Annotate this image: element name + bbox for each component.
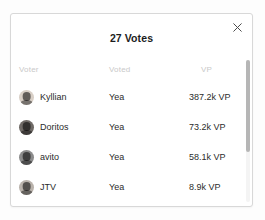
voter-name: avito bbox=[40, 152, 59, 162]
votes-dialog: 27 Votes Voter Voted VP Kyllian Yea 387.… bbox=[10, 13, 253, 207]
table-body: Kyllian Yea 387.2k VP Doritos Yea 73.2k … bbox=[11, 82, 252, 206]
table-row[interactable]: JTV Yea 8.9k VP bbox=[11, 172, 252, 202]
scrollbar[interactable] bbox=[246, 60, 250, 202]
column-header-voter: Voter bbox=[19, 65, 39, 74]
voter-name: Doritos bbox=[40, 122, 69, 132]
avatar bbox=[19, 120, 34, 135]
close-glyph bbox=[233, 23, 242, 32]
vp-value: 8.9k VP bbox=[189, 182, 221, 192]
column-header-voted: Voted bbox=[109, 65, 130, 74]
vp-value: 387.2k VP bbox=[189, 92, 231, 102]
avatar bbox=[19, 90, 34, 105]
table-header-row: Voter Voted VP bbox=[11, 56, 252, 82]
vp-value: 58.1k VP bbox=[189, 152, 226, 162]
voter-name: JTV bbox=[40, 182, 56, 192]
voter-cell: JTV bbox=[19, 180, 56, 195]
voted-value: Yea bbox=[109, 92, 124, 102]
voted-value: Yea bbox=[109, 182, 124, 192]
voter-cell: Doritos bbox=[19, 120, 69, 135]
vp-value: 73.2k VP bbox=[189, 122, 226, 132]
page-title: 27 Votes bbox=[11, 32, 252, 44]
voter-cell: avito bbox=[19, 150, 59, 165]
avatar bbox=[19, 150, 34, 165]
voter-cell: Kyllian bbox=[19, 90, 67, 105]
voter-name: Kyllian bbox=[40, 92, 67, 102]
table-row[interactable]: avito Yea 58.1k VP bbox=[11, 142, 252, 172]
votes-table: Voter Voted VP Kyllian Yea 387.2k VP bbox=[11, 56, 252, 206]
column-header-vp: VP bbox=[201, 65, 212, 74]
voted-value: Yea bbox=[109, 152, 124, 162]
scrollbar-thumb[interactable] bbox=[246, 60, 250, 152]
table-row[interactable]: Doritos Yea 73.2k VP bbox=[11, 112, 252, 142]
voted-value: Yea bbox=[109, 122, 124, 132]
table-row[interactable]: Kyllian Yea 387.2k VP bbox=[11, 82, 252, 112]
avatar bbox=[19, 180, 34, 195]
